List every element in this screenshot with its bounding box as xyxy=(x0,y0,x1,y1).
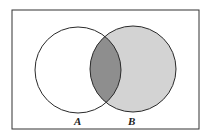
venn-diagram: A B xyxy=(0,0,208,135)
label-b: B xyxy=(127,115,135,127)
label-a: A xyxy=(73,115,81,127)
